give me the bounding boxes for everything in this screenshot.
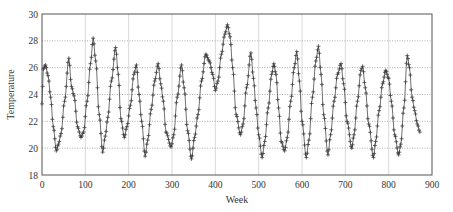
plus-marker-icon bbox=[358, 73, 362, 77]
x-tick-label: 700 bbox=[338, 180, 353, 190]
plus-marker-icon bbox=[269, 77, 273, 81]
plus-marker-icon bbox=[363, 86, 367, 90]
plus-marker-icon bbox=[230, 58, 234, 62]
plus-marker-icon bbox=[234, 113, 238, 117]
y-tick-label: 18 bbox=[29, 171, 39, 181]
plus-marker-icon bbox=[268, 89, 272, 93]
plus-marker-icon bbox=[277, 114, 281, 118]
plus-marker-icon bbox=[375, 135, 379, 139]
plus-marker-icon bbox=[193, 132, 197, 136]
plus-marker-icon bbox=[59, 131, 63, 135]
plus-marker-icon bbox=[388, 82, 392, 86]
plus-marker-icon bbox=[235, 115, 239, 119]
plus-marker-icon bbox=[153, 79, 157, 83]
plus-marker-icon bbox=[176, 92, 180, 96]
plus-marker-icon bbox=[232, 73, 236, 77]
plus-marker-icon bbox=[390, 104, 394, 108]
plus-marker-icon bbox=[183, 92, 187, 96]
plus-marker-icon bbox=[375, 124, 379, 128]
plus-marker-icon bbox=[50, 103, 54, 107]
plus-marker-icon bbox=[355, 99, 359, 103]
plus-marker-icon bbox=[180, 63, 184, 67]
plus-marker-icon bbox=[110, 76, 114, 80]
plus-marker-icon bbox=[225, 23, 229, 27]
plus-marker-icon bbox=[316, 44, 320, 48]
plus-marker-icon bbox=[63, 99, 67, 103]
plus-marker-icon bbox=[320, 82, 324, 86]
plus-marker-icon bbox=[159, 82, 163, 86]
plus-marker-icon bbox=[246, 74, 250, 78]
plus-marker-icon bbox=[417, 128, 421, 132]
plus-marker-icon bbox=[96, 105, 100, 109]
plus-marker-icon bbox=[199, 84, 203, 88]
plus-marker-icon bbox=[332, 99, 336, 103]
plus-marker-icon bbox=[114, 46, 118, 50]
plus-marker-icon bbox=[237, 126, 241, 130]
plus-marker-icon bbox=[253, 99, 257, 103]
y-axis-label: Temperature bbox=[5, 69, 16, 120]
plus-marker-icon bbox=[309, 117, 313, 121]
plus-marker-icon bbox=[217, 75, 221, 79]
plus-marker-icon bbox=[128, 106, 132, 110]
plus-marker-icon bbox=[285, 135, 289, 139]
plus-marker-icon bbox=[408, 73, 412, 77]
plus-marker-icon bbox=[184, 107, 188, 111]
plus-marker-icon bbox=[414, 112, 418, 116]
plus-marker-icon bbox=[341, 77, 345, 81]
plus-marker-icon bbox=[46, 74, 50, 78]
plus-marker-icon bbox=[156, 62, 160, 66]
plus-marker-icon bbox=[381, 82, 385, 86]
plus-marker-icon bbox=[194, 124, 198, 128]
plus-marker-icon bbox=[160, 95, 164, 99]
plus-marker-icon bbox=[58, 134, 62, 138]
plus-marker-icon bbox=[242, 117, 246, 121]
plus-marker-icon bbox=[299, 109, 303, 113]
plus-marker-icon bbox=[266, 106, 270, 110]
plus-marker-icon bbox=[297, 72, 301, 76]
plus-marker-icon bbox=[303, 143, 307, 147]
plus-marker-icon bbox=[370, 147, 374, 151]
plus-marker-icon bbox=[258, 136, 262, 140]
x-tick-label: 0 bbox=[40, 180, 45, 190]
plus-marker-icon bbox=[147, 134, 151, 138]
plus-marker-icon bbox=[366, 117, 370, 121]
plus-marker-icon bbox=[274, 72, 278, 76]
plus-marker-icon bbox=[343, 101, 347, 105]
plus-marker-icon bbox=[135, 70, 139, 74]
plus-marker-icon bbox=[389, 99, 393, 103]
plus-marker-icon bbox=[354, 116, 358, 120]
plus-marker-icon bbox=[357, 84, 361, 88]
plus-marker-icon bbox=[402, 106, 406, 110]
plus-marker-icon bbox=[84, 104, 88, 108]
plus-marker-icon bbox=[95, 86, 99, 90]
x-tick-label: 500 bbox=[252, 180, 267, 190]
plus-marker-icon bbox=[149, 107, 153, 111]
plus-marker-icon bbox=[127, 114, 131, 118]
plus-marker-icon bbox=[251, 70, 255, 74]
grid-lines bbox=[42, 14, 432, 175]
plus-marker-icon bbox=[227, 32, 231, 36]
plus-marker-icon bbox=[199, 79, 203, 83]
plus-marker-icon bbox=[154, 77, 158, 81]
plus-marker-icon bbox=[111, 67, 115, 71]
plus-marker-icon bbox=[89, 62, 93, 66]
plus-marker-icon bbox=[272, 62, 276, 66]
plus-marker-icon bbox=[295, 50, 299, 54]
plus-marker-icon bbox=[165, 131, 169, 135]
plus-marker-icon bbox=[191, 146, 195, 150]
plus-marker-icon bbox=[412, 105, 416, 109]
plus-marker-icon bbox=[86, 94, 90, 98]
plus-marker-icon bbox=[391, 116, 395, 120]
plus-marker-icon bbox=[196, 113, 200, 117]
plus-marker-icon bbox=[380, 86, 384, 90]
plus-marker-icon bbox=[306, 142, 310, 146]
plus-marker-icon bbox=[407, 66, 411, 70]
plus-marker-icon bbox=[319, 72, 323, 76]
plus-marker-icon bbox=[414, 119, 418, 123]
plus-marker-icon bbox=[50, 117, 54, 121]
plus-marker-icon bbox=[353, 128, 357, 132]
plus-marker-icon bbox=[347, 126, 351, 130]
x-tick-label: 900 bbox=[425, 180, 440, 190]
plus-marker-icon bbox=[397, 153, 401, 157]
plus-marker-icon bbox=[97, 113, 101, 117]
